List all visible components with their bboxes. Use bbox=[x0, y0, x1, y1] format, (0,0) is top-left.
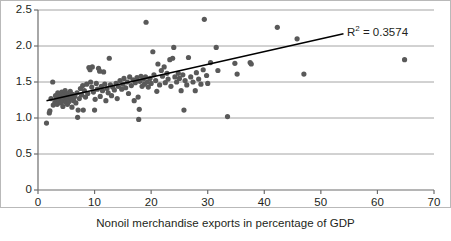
x-tick-label-30: 30 bbox=[193, 196, 223, 208]
x-tick-label-40: 40 bbox=[249, 196, 279, 208]
data-point bbox=[188, 74, 193, 79]
r-squared-value: = 0.3574 bbox=[360, 26, 408, 38]
data-point bbox=[98, 94, 103, 99]
data-point bbox=[112, 87, 117, 92]
data-point bbox=[92, 107, 97, 112]
x-tick-label-20: 20 bbox=[136, 196, 166, 208]
x-axis-title: Nonoil merchandise exports in percentage… bbox=[0, 217, 451, 229]
data-point bbox=[93, 97, 98, 102]
data-point bbox=[193, 88, 198, 93]
data-point bbox=[94, 81, 99, 86]
data-point bbox=[101, 69, 106, 74]
data-point bbox=[235, 71, 240, 76]
data-point bbox=[180, 72, 185, 77]
x-tick-label-10: 10 bbox=[80, 196, 110, 208]
data-point bbox=[215, 68, 220, 73]
data-point bbox=[115, 96, 120, 101]
data-point bbox=[201, 67, 206, 72]
y-tick-label-0.5: 0.5 bbox=[2, 147, 32, 159]
x-tick-label-0: 0 bbox=[23, 196, 53, 208]
data-point bbox=[204, 73, 209, 78]
data-point bbox=[90, 64, 95, 69]
data-point bbox=[402, 57, 407, 62]
data-point bbox=[232, 61, 237, 66]
x-tick-label-60: 60 bbox=[362, 196, 392, 208]
data-point bbox=[194, 70, 199, 75]
data-point bbox=[69, 105, 74, 110]
data-point bbox=[109, 93, 114, 98]
y-tick-label-2.0: 2.0 bbox=[2, 39, 32, 51]
r-squared-annotation: R2 = 0.3574 bbox=[347, 24, 408, 38]
y-tick-label-1.5: 1.5 bbox=[2, 75, 32, 87]
data-point bbox=[88, 79, 93, 84]
data-point bbox=[143, 20, 148, 25]
data-point bbox=[162, 64, 167, 69]
data-point bbox=[249, 61, 254, 66]
data-point bbox=[89, 84, 94, 89]
data-point bbox=[202, 17, 207, 22]
data-point bbox=[184, 82, 189, 87]
data-point bbox=[168, 84, 173, 89]
data-point bbox=[76, 107, 81, 112]
data-point bbox=[205, 81, 210, 86]
data-point bbox=[103, 98, 108, 103]
y-tick-label-1.0: 1.0 bbox=[2, 111, 32, 123]
data-point bbox=[301, 71, 306, 76]
data-point bbox=[107, 56, 112, 61]
data-point bbox=[137, 107, 142, 112]
data-point bbox=[60, 104, 65, 109]
data-point bbox=[81, 107, 86, 112]
data-point bbox=[214, 45, 219, 50]
data-point bbox=[136, 95, 141, 100]
data-point bbox=[153, 78, 158, 83]
data-point bbox=[136, 117, 141, 122]
data-point bbox=[132, 98, 137, 103]
data-point bbox=[179, 88, 184, 93]
data-point bbox=[275, 25, 280, 30]
y-tick-label-2.5: 2.5 bbox=[2, 3, 32, 15]
data-point bbox=[198, 82, 203, 87]
data-point bbox=[295, 36, 300, 41]
data-point bbox=[47, 108, 52, 113]
data-point bbox=[171, 45, 176, 50]
data-point bbox=[149, 81, 154, 86]
data-point bbox=[73, 100, 78, 105]
data-point bbox=[181, 107, 186, 112]
data-point bbox=[44, 120, 49, 125]
x-tick-label-50: 50 bbox=[306, 196, 336, 208]
data-point bbox=[155, 61, 160, 66]
data-point bbox=[123, 85, 128, 90]
scatter-chart-figure: 00.51.01.52.02.5 010203040506070 R2 = 0.… bbox=[0, 0, 451, 241]
data-point bbox=[170, 56, 175, 61]
data-point bbox=[196, 77, 201, 82]
data-point bbox=[75, 115, 80, 120]
data-point bbox=[225, 114, 230, 119]
data-point bbox=[190, 79, 195, 84]
data-point bbox=[126, 91, 131, 96]
y-tick-label-0: 0 bbox=[2, 183, 32, 195]
data-point bbox=[186, 55, 191, 60]
data-point bbox=[154, 89, 159, 94]
data-point bbox=[166, 77, 171, 82]
data-point bbox=[50, 79, 55, 84]
x-tick-label-70: 70 bbox=[419, 196, 449, 208]
data-point bbox=[150, 49, 155, 54]
data-point bbox=[157, 82, 162, 87]
